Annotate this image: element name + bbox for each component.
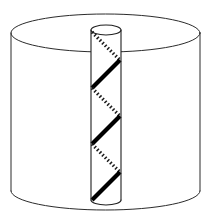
figure-root: [0, 0, 210, 223]
cylinder-diagram-svg: [0, 0, 210, 223]
inner-rod-group: [91, 25, 121, 205]
